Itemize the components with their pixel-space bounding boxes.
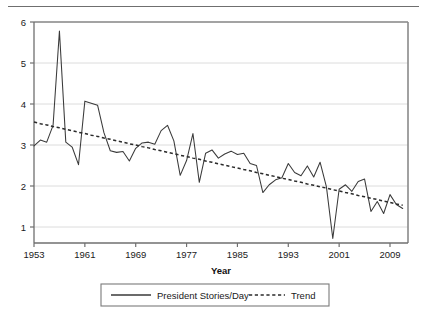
chart-figure: 123456 19531961196919771985199320012009 … [0,0,427,324]
x-axis-tick-label: 1985 [227,249,248,260]
series-president-stories-per-day [34,31,403,238]
x-axis-tick-label: 2001 [329,249,350,260]
x-axis-title: Year [211,265,231,276]
y-axis-tick-label: 2 [21,181,26,192]
y-axis-tick-label: 4 [21,99,26,110]
legend-label-series: President Stories/Day [157,290,249,301]
gridlines [34,22,408,227]
y-axis-tick-label: 6 [21,17,26,28]
x-axis-tick-labels: 19531961196919771985199320012009 [23,249,400,260]
x-axis-tick-label: 1977 [176,249,197,260]
plot-frame [34,22,408,243]
line-chart-svg: 123456 19531961196919771985199320012009 … [0,0,427,324]
y-axis-tick-label: 1 [21,222,26,233]
x-axis-tick-label: 2009 [379,249,400,260]
legend: President Stories/Day Trend [101,284,329,306]
x-axis-tick-label: 1969 [125,249,146,260]
y-axis-tick-labels: 123456 [21,17,26,233]
legend-label-trend: Trend [291,290,315,301]
y-axis-tick-label: 3 [21,140,26,151]
x-axis-tick-label: 1993 [278,249,299,260]
y-axis-tick-label: 5 [21,58,26,69]
x-axis-tick-label: 1953 [23,249,44,260]
series-trend [34,122,403,205]
x-axis-tick-label: 1961 [74,249,95,260]
